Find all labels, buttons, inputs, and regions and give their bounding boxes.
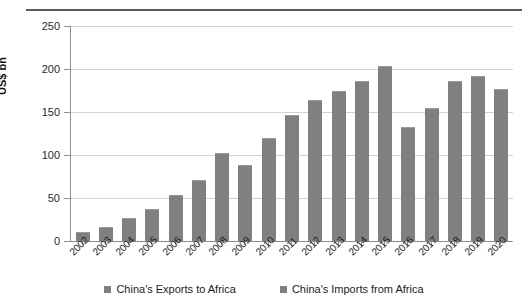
x-label-slot: 2020 (489, 246, 512, 280)
bar-chart: US$ bn 050100150200250 20022003200420052… (0, 0, 528, 303)
legend-label: China's Imports from Africa (292, 283, 424, 295)
y-tick-label-0: 0 (20, 236, 60, 247)
legend-swatch-icon (104, 286, 111, 293)
bar-slot (187, 26, 210, 241)
bar (494, 89, 508, 241)
chart-legend: China's Exports to AfricaChina's Imports… (0, 281, 528, 297)
bar-slot (118, 26, 141, 241)
legend-label: China's Exports to Africa (116, 283, 236, 295)
bar-slot (211, 26, 234, 241)
y-axis-label: US$ bn (0, 57, 8, 95)
bar (448, 81, 462, 241)
x-label-slot: 2005 (140, 246, 163, 280)
bar (308, 100, 322, 241)
x-label-slot: 2004 (117, 246, 140, 280)
bar (215, 153, 229, 241)
bar (401, 127, 415, 241)
bar-slot (397, 26, 420, 241)
x-label-slot: 2017 (419, 246, 442, 280)
x-label-slot: 2019 (466, 246, 489, 280)
bar (238, 165, 252, 241)
bar (262, 138, 276, 241)
bar-slot (350, 26, 373, 241)
bar (285, 115, 299, 241)
plot-area (70, 26, 513, 241)
x-axis-labels: 2002200320042005200620072008200920102011… (70, 246, 512, 280)
bar (378, 66, 392, 241)
bar-slot (467, 26, 490, 241)
bar (192, 180, 206, 241)
x-label-slot: 2018 (442, 246, 465, 280)
bar (471, 76, 485, 241)
bar-slot (257, 26, 280, 241)
x-label-slot: 2009 (233, 246, 256, 280)
bar-slot (234, 26, 257, 241)
x-label-slot: 2008 (210, 246, 233, 280)
bar-slot (164, 26, 187, 241)
bar-slot (373, 26, 396, 241)
y-tick-label-150: 150 (20, 107, 60, 118)
bar-series (71, 26, 513, 241)
x-label-slot: 2016 (396, 246, 419, 280)
legend-item[interactable]: China's Imports from Africa (280, 283, 424, 295)
bar (332, 91, 346, 241)
top-divider (26, 9, 522, 11)
bar-slot (490, 26, 513, 241)
legend-item[interactable]: China's Exports to Africa (104, 283, 236, 295)
y-tick-label-100: 100 (20, 150, 60, 161)
x-label-slot: 2011 (279, 246, 302, 280)
x-label-slot: 2013 (326, 246, 349, 280)
x-label-slot: 2014 (349, 246, 372, 280)
x-label-slot: 2012 (303, 246, 326, 280)
bar-slot (141, 26, 164, 241)
x-label-slot: 2015 (372, 246, 395, 280)
bar-slot (71, 26, 94, 241)
bar-slot (280, 26, 303, 241)
bar-slot (420, 26, 443, 241)
bar (355, 81, 369, 241)
x-label-slot: 2003 (93, 246, 116, 280)
x-label-slot: 2002 (70, 246, 93, 280)
x-label-slot: 2006 (163, 246, 186, 280)
legend-swatch-icon (280, 286, 287, 293)
bar (425, 108, 439, 241)
bar-slot (94, 26, 117, 241)
y-tick-label-200: 200 (20, 64, 60, 75)
bar-slot (304, 26, 327, 241)
y-tick-label-50: 50 (20, 193, 60, 204)
bar-slot (443, 26, 466, 241)
x-label-slot: 2007 (186, 246, 209, 280)
y-tick-label-250: 250 (20, 21, 60, 32)
bar-slot (327, 26, 350, 241)
x-label-slot: 2010 (256, 246, 279, 280)
